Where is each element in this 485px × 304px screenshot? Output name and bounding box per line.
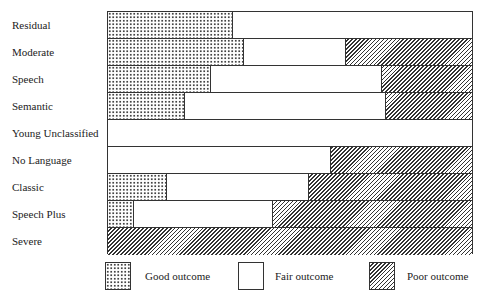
category-label: Classic [12,180,44,194]
bar-segment-fair [133,201,271,227]
category-label: No Language [12,153,72,167]
bar-row [108,12,472,39]
bar-row [108,120,472,147]
bar-row [108,147,472,174]
bar-segment-good [108,66,210,92]
category-label: Young Unclassified [12,126,99,140]
bar-segment-fair [210,66,381,92]
category-label: Moderate [12,45,54,59]
bar-segment-good [108,12,232,38]
category-label: Severe [12,234,42,248]
category-label: Speech Plus [12,207,65,221]
bar-segment-poor [330,147,472,173]
bar-segment-fair [184,93,384,119]
legend-label-good: Good outcome [145,269,210,283]
bar-segment-poor [345,39,472,65]
bar-segment-poor [272,201,472,227]
legend-swatch-fair [238,262,264,290]
bar-segment-fair [108,147,330,173]
bar-segment-poor [385,93,472,119]
bar-segment-poor [308,174,472,200]
bar-row [108,174,472,201]
category-label: Speech [12,72,44,86]
bar-segment-good [108,39,243,65]
legend-swatch-poor [369,262,395,290]
bar-segment-poor [108,228,472,255]
legend-label-fair: Fair outcome [275,269,333,283]
bar-segment-fair [243,39,345,65]
legend-swatch-good [105,262,131,290]
bar-segment-good [108,174,166,200]
bar-row [108,201,472,228]
bar-segment-fair [166,174,308,200]
bar-segment-good [108,201,133,227]
bar-segment-good [108,93,184,119]
category-label: Residual [12,18,51,32]
bar-segment-fair [108,120,472,146]
category-label: Semantic [12,99,53,113]
bar-row [108,228,472,255]
bar-segment-fair [232,12,472,38]
bar-segment-poor [381,66,472,92]
bar-row [108,39,472,66]
legend-label-poor: Poor outcome [407,269,468,283]
bar-row [108,66,472,93]
bar-row [108,93,472,120]
bar-plot-area [107,11,473,254]
